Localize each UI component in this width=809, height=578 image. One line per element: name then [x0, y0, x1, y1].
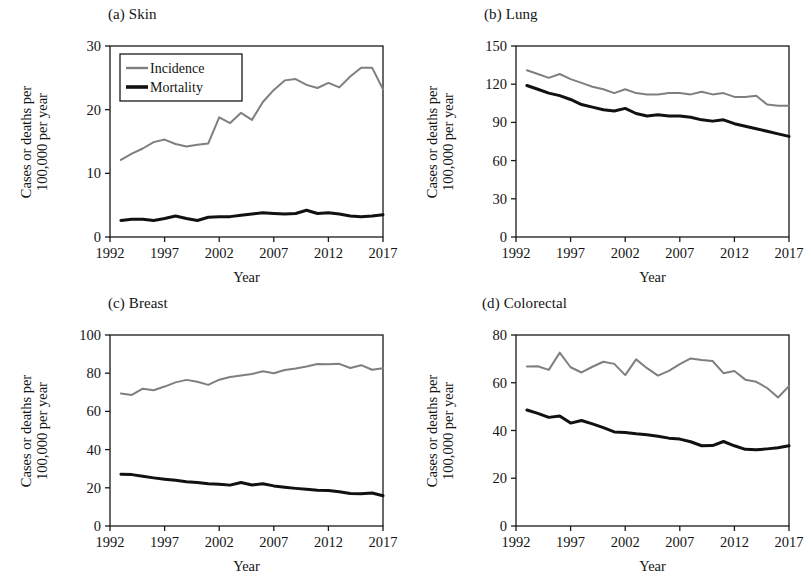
plot-area-colorectal: 020406080199219972002200720122017 [404, 289, 808, 578]
y-tick-label: 0 [94, 229, 101, 245]
y-tick-label: 150 [485, 38, 507, 54]
x-tick-label: 2017 [369, 245, 398, 261]
series-line-incidence [527, 70, 789, 106]
plot-area-lung: 0306090120150199219972002200720122017 [404, 0, 808, 289]
y-tick-label: 0 [94, 518, 101, 534]
y-tick-label: 60 [87, 403, 102, 419]
series-line-mortality [527, 85, 789, 136]
y-tick-label: 120 [485, 76, 507, 92]
x-tick-label: 1992 [502, 534, 531, 550]
x-tick-label: 1992 [502, 245, 531, 261]
x-tick-label: 1997 [556, 534, 585, 550]
y-tick-label: 100 [79, 327, 101, 343]
x-tick-label: 2002 [205, 245, 234, 261]
x-tick-label: 2002 [611, 534, 640, 550]
panel-skin: (a) Skin Cases or deaths per 100,000 per… [0, 0, 404, 289]
panel-lung: (b) Lung Cases or deaths per 100,000 per… [404, 0, 808, 289]
x-tick-label: 2007 [665, 245, 694, 261]
x-tick-label: 2002 [611, 245, 640, 261]
series-line-mortality [527, 410, 789, 450]
plot-area-breast: 020406080100199219972002200720122017 [0, 289, 404, 578]
y-tick-label: 0 [500, 518, 507, 534]
y-tick-label: 90 [493, 114, 508, 130]
x-tick-label: 2007 [259, 534, 288, 550]
series-line-incidence [121, 364, 383, 395]
y-tick-label: 80 [87, 365, 102, 381]
x-tick-label: 2007 [665, 534, 694, 550]
y-tick-label: 60 [493, 153, 508, 169]
y-tick-label: 30 [87, 38, 102, 54]
x-tick-label: 2012 [720, 245, 749, 261]
y-tick-label: 40 [87, 442, 102, 458]
series-line-incidence [527, 353, 789, 398]
y-tick-label: 80 [493, 327, 508, 343]
y-tick-label: 20 [493, 470, 508, 486]
x-tick-label: 2012 [720, 534, 749, 550]
cancer-trends-figure: (a) Skin Cases or deaths per 100,000 per… [0, 0, 809, 578]
y-tick-label: 40 [493, 423, 508, 439]
legend-label-incidence: Incidence [150, 61, 204, 76]
x-tick-label: 1992 [96, 245, 125, 261]
x-tick-label: 2002 [205, 534, 234, 550]
x-tick-label: 2012 [314, 245, 343, 261]
panel-colorectal: (d) Colorectal Cases or deaths per 100,0… [404, 289, 808, 578]
plot-area-skin: 0102030199219972002200720122017Incidence… [0, 0, 404, 289]
x-tick-label: 1997 [150, 534, 179, 550]
x-tick-label: 2012 [314, 534, 343, 550]
series-line-mortality [121, 210, 383, 220]
legend-label-mortality: Mortality [150, 80, 203, 95]
x-tick-label: 1997 [556, 245, 585, 261]
x-tick-label: 2017 [775, 245, 804, 261]
x-tick-label: 1992 [96, 534, 125, 550]
x-tick-label: 2017 [775, 534, 804, 550]
y-tick-label: 10 [87, 165, 102, 181]
y-tick-label: 60 [493, 375, 508, 391]
x-tick-label: 2017 [369, 534, 398, 550]
x-tick-label: 1997 [150, 245, 179, 261]
y-tick-label: 20 [87, 102, 102, 118]
x-tick-label: 2007 [259, 245, 288, 261]
series-line-mortality [121, 474, 383, 496]
y-tick-label: 30 [493, 191, 508, 207]
y-tick-label: 20 [87, 480, 102, 496]
panel-breast: (c) Breast Cases or deaths per 100,000 p… [0, 289, 404, 578]
y-tick-label: 0 [500, 229, 507, 245]
